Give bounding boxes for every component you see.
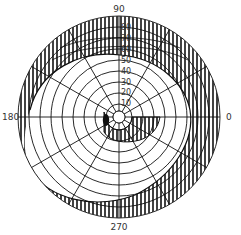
ring-label-50: 50 (121, 56, 131, 65)
label-right: 0 (226, 112, 232, 122)
label-top: 90 (113, 4, 125, 14)
center-circle (113, 111, 125, 123)
solid-marker (103, 114, 109, 126)
ring-label-70: 70 (121, 34, 131, 43)
ring-label-60: 60 (121, 45, 131, 54)
polar-diagram: 90 180 0 270 10 20 30 40 50 60 70 80 (0, 0, 241, 235)
label-bottom: 270 (110, 222, 127, 232)
label-left: 180 (2, 112, 19, 122)
ring-label-30: 30 (121, 78, 131, 87)
ring-labels: 10 20 30 40 50 60 70 80 (121, 23, 131, 108)
ring-label-40: 40 (121, 67, 131, 76)
ring-label-20: 20 (121, 88, 131, 97)
ring-label-80: 80 (121, 23, 131, 32)
ring-label-10: 10 (121, 99, 131, 108)
